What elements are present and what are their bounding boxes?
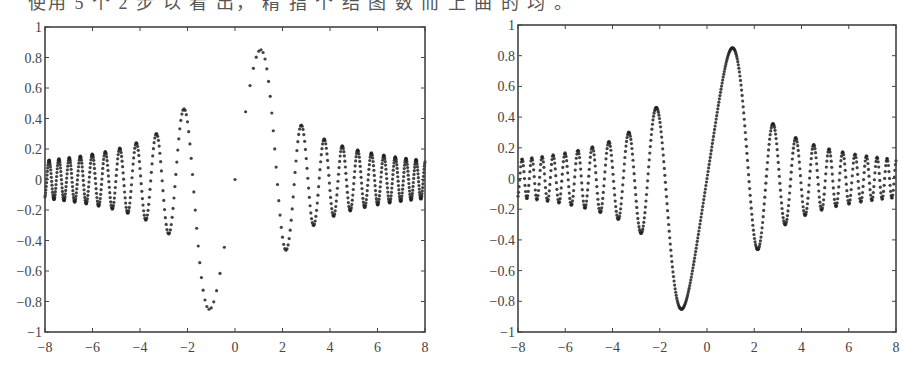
y-tick-label: −0.4 — [17, 234, 42, 249]
y-tick-label: 1 — [508, 18, 515, 33]
y-tick-label: −1 — [500, 325, 515, 340]
y-tick-label: −0.2 — [490, 202, 515, 217]
data-points — [43, 48, 426, 311]
y-tick-label: 0.4 — [25, 112, 43, 127]
y-tick-label: 0.8 — [498, 49, 516, 64]
y-tick-label: 0.8 — [25, 51, 43, 66]
x-tick-label: −8 — [511, 340, 526, 355]
y-tick-label: 0.6 — [25, 81, 43, 96]
x-tick-label: 2 — [751, 340, 758, 355]
x-tick-label: −6 — [85, 340, 100, 355]
x-tick-label: 6 — [845, 340, 852, 355]
y-tick-label: −0.8 — [490, 294, 515, 309]
y-tick-label: 0.2 — [498, 141, 516, 156]
x-tick-label: 6 — [374, 340, 381, 355]
y-tick-label: 0.2 — [25, 142, 43, 157]
x-tick-label: 8 — [422, 340, 429, 355]
chart-canvas: −8−6−4−20246810.80.60.40.20−0.2−0.4−0.6−… — [0, 0, 903, 370]
x-tick-label: −6 — [558, 340, 573, 355]
right-scatter-plot: −8−6−4−20246810.80.60.40.20−0.2−0.4−0.6−… — [490, 18, 900, 355]
left-scatter-plot: −8−6−4−20246810.80.60.40.20−0.2−0.4−0.6−… — [17, 20, 429, 355]
y-tick-label: −0.4 — [490, 233, 515, 248]
y-tick-label: 0.6 — [498, 79, 516, 94]
x-tick-label: −2 — [180, 340, 195, 355]
data-points — [516, 46, 897, 311]
y-tick-label: −0.6 — [490, 264, 515, 279]
x-tick-label: 2 — [279, 340, 286, 355]
y-tick-label: 1 — [35, 20, 42, 35]
x-tick-label: 4 — [798, 340, 805, 355]
x-tick-label: −4 — [133, 340, 148, 355]
y-tick-label: 0 — [35, 173, 42, 188]
x-tick-label: 4 — [327, 340, 334, 355]
y-tick-label: 0 — [508, 172, 515, 187]
y-tick-label: 0.4 — [498, 110, 516, 125]
y-tick-label: −0.8 — [17, 295, 42, 310]
x-tick-label: −8 — [38, 340, 53, 355]
y-tick-label: −1 — [27, 325, 42, 340]
x-tick-label: 0 — [232, 340, 239, 355]
y-tick-label: −0.2 — [17, 203, 42, 218]
x-tick-label: −4 — [605, 340, 620, 355]
x-tick-label: 8 — [893, 340, 900, 355]
x-tick-label: 0 — [704, 340, 711, 355]
y-tick-label: −0.6 — [17, 264, 42, 279]
x-tick-label: −2 — [652, 340, 667, 355]
